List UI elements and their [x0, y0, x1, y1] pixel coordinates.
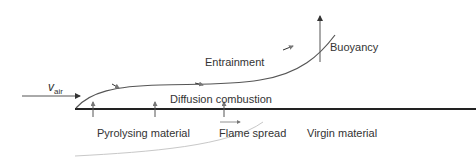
entrainment-arrow	[112, 84, 119, 88]
flame-spread-label: Flame spread	[219, 127, 286, 139]
entrainment-label: Entrainment	[205, 56, 264, 68]
buoyancy-label: Buoyancy	[330, 41, 378, 53]
pyrolysing-material-label: Pyrolysing material	[97, 127, 190, 139]
virgin-material-label: Virgin material	[307, 127, 377, 139]
entrainment-arrow	[283, 46, 293, 50]
air-velocity-label: vair	[48, 80, 63, 96]
diffusion-combustion-label: Diffusion combustion	[170, 93, 272, 105]
fire-spread-diagram	[0, 0, 476, 165]
air-subscript: air	[54, 87, 63, 96]
